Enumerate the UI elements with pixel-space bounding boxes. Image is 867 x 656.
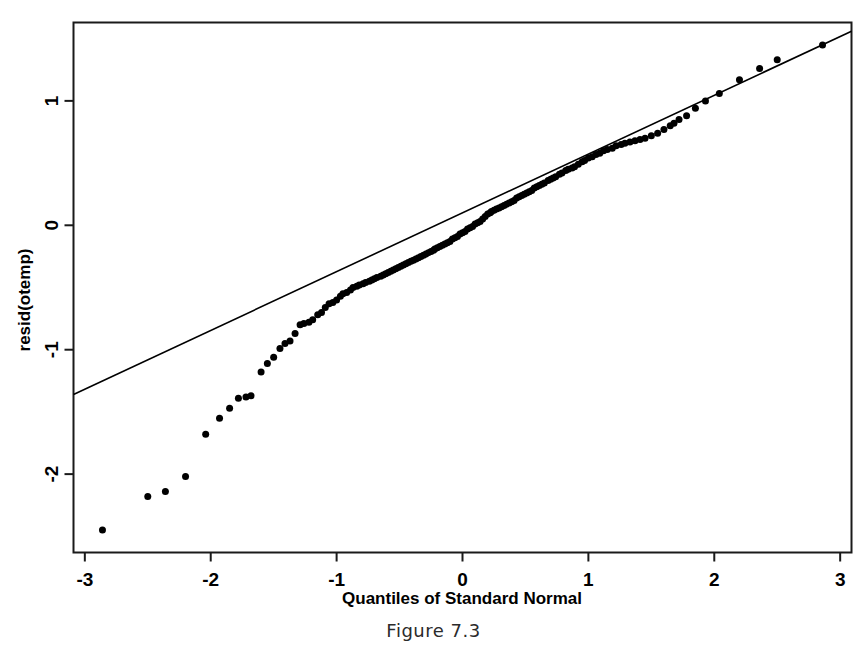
data-point xyxy=(248,392,255,399)
x-tick-label: 1 xyxy=(583,569,594,590)
data-point xyxy=(162,488,169,495)
x-tick-label: -3 xyxy=(76,569,93,590)
data-point xyxy=(258,369,265,376)
x-tick-label: -2 xyxy=(202,569,219,590)
y-axis-title: resid(otemp) xyxy=(15,249,34,352)
data-point xyxy=(648,132,655,139)
x-tick-label: -1 xyxy=(328,569,345,590)
data-point xyxy=(642,135,649,142)
plot-background xyxy=(0,0,867,656)
data-point xyxy=(226,405,233,412)
data-point xyxy=(716,90,723,97)
data-point xyxy=(702,97,709,104)
y-tick-label: 1 xyxy=(41,95,62,106)
data-point xyxy=(660,126,667,133)
data-point xyxy=(756,65,763,72)
data-point xyxy=(235,395,242,402)
data-point xyxy=(264,360,271,367)
x-tick-label: 0 xyxy=(457,569,468,590)
x-axis-title: Quantiles of Standard Normal xyxy=(342,589,582,608)
data-point xyxy=(692,105,699,112)
x-tick-label: 3 xyxy=(835,569,846,590)
data-point xyxy=(216,415,223,422)
data-point xyxy=(736,76,743,83)
data-point xyxy=(276,345,283,352)
figure-container: -3-2-10123 10-1-2 Quantiles of Standard … xyxy=(0,0,867,656)
data-point xyxy=(144,493,151,500)
y-tick-label: 0 xyxy=(41,220,62,231)
data-point xyxy=(819,41,826,48)
qq-plot-svg: -3-2-10123 10-1-2 Quantiles of Standard … xyxy=(0,0,867,656)
data-point xyxy=(270,354,277,361)
data-point xyxy=(292,330,299,337)
data-point xyxy=(654,130,661,137)
x-tick-label: 2 xyxy=(709,569,720,590)
y-tick-label: -2 xyxy=(41,466,62,483)
data-point xyxy=(182,473,189,480)
data-point xyxy=(287,337,294,344)
y-tick-label: -1 xyxy=(41,341,62,358)
data-point xyxy=(309,316,316,323)
data-point xyxy=(99,527,106,534)
data-point xyxy=(202,431,209,438)
data-point xyxy=(774,56,781,63)
figure-caption: Figure 7.3 xyxy=(0,620,867,641)
data-point xyxy=(683,112,690,119)
data-point xyxy=(676,116,683,123)
